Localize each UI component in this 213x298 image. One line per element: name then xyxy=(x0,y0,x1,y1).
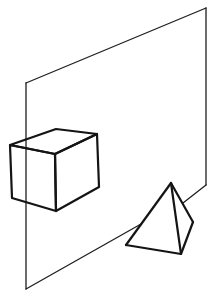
cube-right-face xyxy=(55,134,99,211)
drawing-canvas xyxy=(0,0,213,298)
cube-left-face xyxy=(10,145,56,211)
cube-top-face xyxy=(10,129,97,154)
plane-top-edge xyxy=(26,8,206,83)
pyramid-left-edge xyxy=(126,183,171,245)
cube xyxy=(10,129,99,211)
drawing-figure xyxy=(0,0,213,298)
plane-bottom-edge-left xyxy=(26,224,141,289)
plane-bottom-edge-right xyxy=(183,185,206,203)
pyramid xyxy=(126,183,193,254)
